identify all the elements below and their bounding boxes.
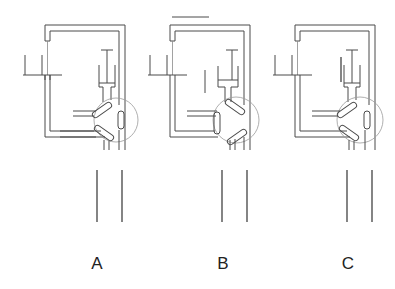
syringe (99, 50, 115, 102)
diagram-canvas (0, 0, 395, 289)
panel-label-c: C (333, 254, 363, 274)
rotary-valve (337, 97, 383, 143)
panel-c (273, 25, 383, 222)
syringe (341, 50, 360, 102)
panel-b (148, 17, 259, 222)
rotary-valve (94, 98, 138, 142)
syringe (218, 50, 238, 102)
left-tube (45, 75, 105, 137)
panel-label-a: A (82, 254, 112, 274)
valve-channels (214, 98, 248, 146)
panel-a (23, 25, 138, 222)
panel-label-b: B (208, 254, 238, 274)
